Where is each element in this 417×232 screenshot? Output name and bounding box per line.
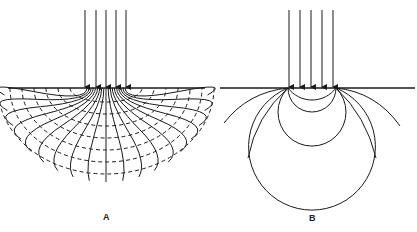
flow-line — [0, 88, 89, 111]
panel-a — [0, 10, 215, 182]
flow-line — [25, 88, 95, 152]
flow-circle — [278, 88, 346, 146]
equipotential-arc — [0, 88, 214, 174]
flow-line — [6, 88, 92, 125]
panel-b — [220, 10, 415, 210]
flow-line-left-inner — [248, 88, 288, 158]
flow-line — [70, 88, 101, 177]
panel-a-label: A — [103, 212, 110, 222]
panel-b-label: B — [309, 213, 316, 223]
flow-line — [121, 88, 207, 125]
flow-line — [117, 88, 187, 152]
flow-circle — [288, 88, 336, 100]
flow-circle — [249, 88, 376, 210]
diagram-canvas — [0, 0, 417, 232]
